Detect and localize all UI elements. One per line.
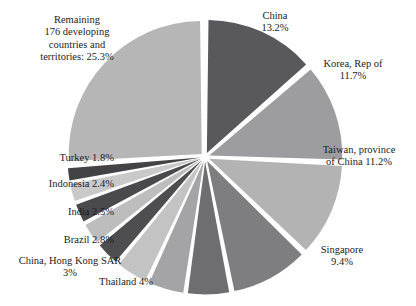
slice-label-taiwan: Taiwan, province of China 11.2% (304, 144, 414, 169)
pie-chart-figure: Remaining 176 developing countries and t… (0, 0, 416, 306)
slice-label-china: China 13.2% (236, 10, 314, 35)
slice-label-singapore: Singapore 9.4% (300, 244, 384, 269)
slice-label-indonesia: Indonesia 2.4% (0, 178, 114, 190)
slice-label-turkey: Turkey 1.8% (12, 152, 114, 164)
slice-label-india: India 2.5% (22, 206, 114, 218)
slice-label-brazil: Brazil 2.8% (22, 234, 114, 246)
slice-label-remaining: Remaining 176 developing countries and t… (14, 14, 140, 64)
slice-label-china-hong-kong-sar: China, Hong Kong SAR 3% (6, 255, 134, 280)
slice-label-korea: Korea, Rep of 11.7% (300, 58, 406, 83)
